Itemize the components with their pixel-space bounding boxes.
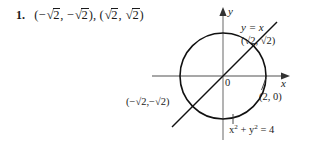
circle-eq-mid: + y xyxy=(238,124,254,135)
point-label-upper-right: (√2, √2) xyxy=(241,36,275,47)
origin-label: 0 xyxy=(225,78,230,89)
point-label-lower-left: (−√2,−√2) xyxy=(126,97,170,108)
y-axis-label: y xyxy=(228,6,233,17)
point-label-x-intercept: (2, 0) xyxy=(259,92,282,103)
coordinate-graph: y x 0 y = x (√2, √2) (2, 0) (−√2,−√2) x2… xyxy=(0,0,318,147)
y-axis-arrow-icon xyxy=(219,7,226,16)
circle-eq-tail: = 4 xyxy=(258,124,274,135)
circle-equation-label: x2 + y2 = 4 xyxy=(229,125,274,136)
x-axis-label: x xyxy=(281,78,286,89)
line-equation-label: y = x xyxy=(241,22,264,33)
figure-page: 1.(−√2, −√2), (√2, √2) y x 0 y = x xyxy=(0,0,318,147)
